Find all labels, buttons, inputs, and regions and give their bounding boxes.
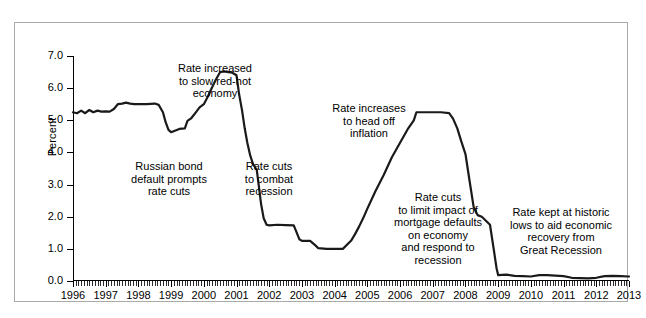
x-minor-tick bbox=[272, 281, 273, 286]
x-minor-tick bbox=[316, 281, 317, 286]
x-minor-tick bbox=[468, 281, 469, 286]
x-minor-tick bbox=[313, 281, 314, 286]
x-tick-label: 2001 bbox=[220, 289, 254, 301]
x-minor-tick bbox=[517, 281, 518, 286]
x-minor-tick bbox=[155, 281, 156, 286]
x-minor-tick bbox=[152, 281, 153, 286]
plot-area: Rate increased to slow red-hot economy R… bbox=[73, 56, 629, 281]
x-minor-tick bbox=[615, 281, 616, 286]
y-tick-label: 7.0 bbox=[33, 50, 63, 61]
x-minor-tick bbox=[512, 281, 513, 286]
x-minor-tick bbox=[149, 281, 150, 286]
x-minor-tick bbox=[441, 281, 442, 286]
x-minor-tick bbox=[223, 281, 224, 286]
x-tick-label: 2004 bbox=[318, 289, 352, 301]
x-tick-label: 2002 bbox=[252, 289, 286, 301]
x-minor-tick bbox=[136, 281, 137, 286]
x-minor-tick bbox=[147, 281, 148, 286]
x-minor-tick bbox=[457, 281, 458, 286]
x-minor-tick bbox=[354, 281, 355, 286]
x-minor-tick bbox=[247, 281, 248, 286]
x-minor-tick bbox=[545, 281, 546, 286]
x-minor-tick bbox=[103, 281, 104, 286]
x-minor-tick bbox=[179, 281, 180, 286]
x-minor-tick bbox=[607, 281, 608, 286]
x-minor-tick bbox=[561, 281, 562, 286]
annotation-historic-lows: Rate kept at historic lows to aid econom… bbox=[493, 206, 629, 256]
x-minor-tick bbox=[242, 281, 243, 286]
x-minor-tick bbox=[547, 281, 548, 286]
x-minor-tick bbox=[125, 281, 126, 286]
x-minor-tick bbox=[231, 281, 232, 286]
x-minor-tick bbox=[114, 281, 115, 286]
x-minor-tick bbox=[288, 281, 289, 286]
x-minor-tick bbox=[351, 281, 352, 286]
x-minor-tick bbox=[356, 281, 357, 286]
x-minor-tick bbox=[250, 281, 251, 286]
x-minor-tick bbox=[621, 281, 622, 286]
x-minor-tick bbox=[111, 281, 112, 286]
x-tick-label: 1997 bbox=[89, 289, 123, 301]
x-minor-tick bbox=[157, 281, 158, 286]
figure-container: Percent 7.06.05.04.03.02.01.00.0 Rate in… bbox=[0, 0, 646, 318]
x-minor-tick bbox=[425, 281, 426, 286]
x-minor-tick bbox=[81, 281, 82, 286]
x-minor-tick bbox=[84, 281, 85, 286]
x-minor-tick bbox=[588, 281, 589, 286]
x-minor-tick bbox=[392, 281, 393, 286]
x-minor-tick bbox=[122, 281, 123, 286]
x-minor-tick bbox=[302, 281, 303, 287]
x-minor-tick bbox=[87, 281, 88, 286]
x-minor-tick bbox=[435, 281, 436, 286]
x-minor-tick bbox=[217, 281, 218, 286]
x-minor-tick bbox=[408, 281, 409, 286]
x-tick-label: 1996 bbox=[56, 289, 90, 301]
x-minor-tick bbox=[465, 281, 466, 287]
x-minor-tick bbox=[474, 281, 475, 286]
x-minor-tick bbox=[577, 281, 578, 286]
x-minor-tick bbox=[166, 281, 167, 286]
x-minor-tick bbox=[359, 281, 360, 286]
x-minor-tick bbox=[574, 281, 575, 286]
x-minor-tick bbox=[446, 281, 447, 286]
x-minor-tick bbox=[294, 281, 295, 286]
x-minor-tick bbox=[373, 281, 374, 286]
x-minor-tick bbox=[171, 281, 172, 287]
x-minor-tick bbox=[397, 281, 398, 286]
annotation-rate-cuts-recession: Rate cuts to combat recession bbox=[219, 160, 319, 198]
x-minor-tick bbox=[414, 281, 415, 286]
x-minor-tick bbox=[438, 281, 439, 286]
x-minor-tick bbox=[433, 281, 434, 287]
x-minor-tick bbox=[596, 281, 597, 287]
x-minor-tick bbox=[594, 281, 595, 286]
x-tick-label: 2010 bbox=[514, 289, 548, 301]
x-minor-tick bbox=[226, 281, 227, 286]
x-minor-tick bbox=[307, 281, 308, 286]
x-minor-tick bbox=[367, 281, 368, 287]
x-minor-tick bbox=[539, 281, 540, 286]
x-minor-tick bbox=[299, 281, 300, 286]
x-minor-tick bbox=[234, 281, 235, 286]
x-minor-tick bbox=[228, 281, 229, 286]
x-minor-tick bbox=[531, 281, 532, 287]
x-minor-tick bbox=[119, 281, 120, 286]
x-minor-tick bbox=[626, 281, 627, 286]
x-tick-label: 2006 bbox=[383, 289, 417, 301]
x-minor-tick bbox=[160, 281, 161, 286]
x-minor-tick bbox=[177, 281, 178, 286]
x-minor-tick bbox=[321, 281, 322, 286]
x-minor-tick bbox=[141, 281, 142, 286]
chart-frame: Percent 7.06.05.04.03.02.01.00.0 Rate in… bbox=[14, 22, 628, 302]
annotation-rate-increased: Rate increased to slow red-hot economy bbox=[155, 62, 275, 100]
x-minor-tick bbox=[542, 281, 543, 286]
x-minor-tick bbox=[525, 281, 526, 286]
x-minor-tick bbox=[493, 281, 494, 286]
x-minor-tick bbox=[411, 281, 412, 286]
x-tick-label: 2008 bbox=[448, 289, 482, 301]
x-minor-tick bbox=[553, 281, 554, 286]
x-minor-tick bbox=[133, 281, 134, 286]
x-minor-tick bbox=[256, 281, 257, 286]
annotation-russian-bond-default: Russian bond default prompts rate cuts bbox=[109, 160, 229, 198]
x-minor-tick bbox=[117, 281, 118, 286]
x-minor-tick bbox=[580, 281, 581, 286]
